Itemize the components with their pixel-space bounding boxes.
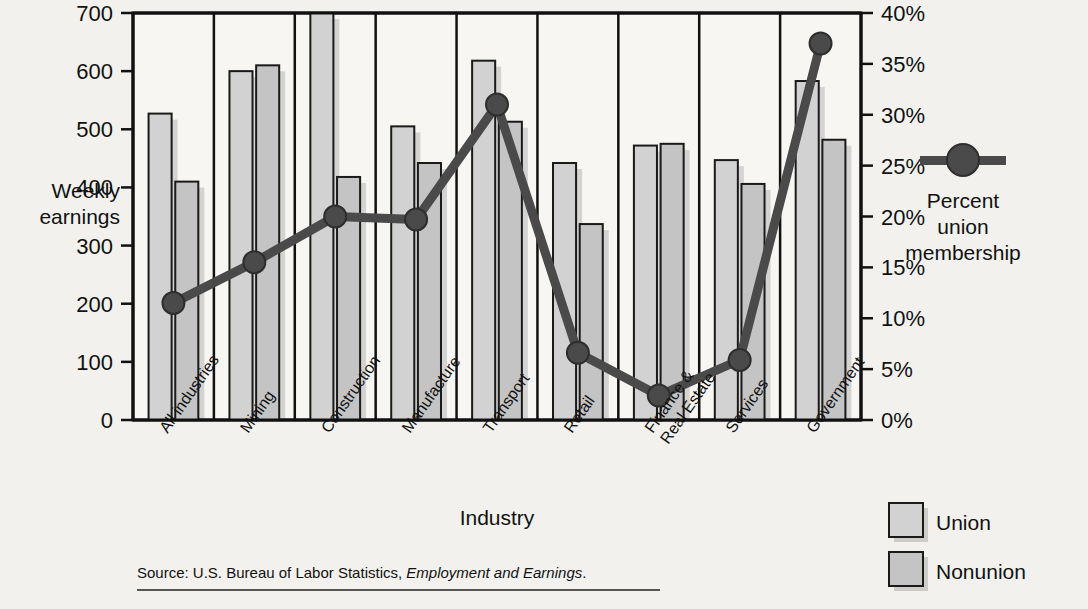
legend-line-label-line1: Percent [927, 189, 1000, 212]
source-note: Source: U.S. Bureau of Labor Statistics,… [137, 564, 586, 581]
y-axis-title-line2: earnings [39, 205, 120, 228]
right-axis-tick-label: 35% [881, 52, 925, 77]
left-axis-tick-label: 100 [76, 350, 113, 375]
bar-union [149, 114, 172, 420]
line-data-point[interactable] [486, 94, 508, 116]
legend-line-marker-icon [947, 144, 979, 176]
legend-nonunion-swatch [889, 552, 923, 586]
left-axis-tick-label: 300 [76, 234, 113, 259]
line-data-point[interactable] [810, 33, 832, 55]
chart-figure: 0100200300400500600700 0%5%10%15%20%25%3… [0, 0, 1088, 609]
line-data-point[interactable] [567, 342, 589, 364]
line-data-point[interactable] [162, 292, 184, 314]
right-axis-tick-label: 0% [881, 408, 913, 433]
bar-nonunion [580, 224, 603, 420]
left-axis-tick-label: 500 [76, 117, 113, 142]
bar-union [391, 126, 414, 420]
legend-union-label: Union [936, 511, 991, 534]
legend-nonunion-label: Nonunion [936, 560, 1026, 583]
line-data-point[interactable] [729, 349, 751, 371]
y-axis-title-line1: Weekly [52, 179, 121, 202]
legend-line-label-line2: union [937, 215, 988, 238]
right-axis-tick-label: 25% [881, 154, 925, 179]
right-axis-tick-label: 10% [881, 306, 925, 331]
right-axis-tick-label: 5% [881, 357, 913, 382]
right-axis-tick-label: 40% [881, 1, 925, 26]
left-axis-tick-label: 700 [76, 1, 113, 26]
bar-union [229, 71, 252, 420]
left-axis-tick-label: 200 [76, 292, 113, 317]
legend-union-swatch [889, 503, 923, 537]
legend-line-label-line3: membership [905, 241, 1021, 264]
left-axis-tick-label: 0 [101, 408, 113, 433]
right-axis-tick-label: 20% [881, 205, 925, 230]
chart-svg: 0100200300400500600700 0%5%10%15%20%25%3… [0, 0, 1088, 609]
line-data-point[interactable] [324, 206, 346, 228]
right-axis-tick-label: 30% [881, 103, 925, 128]
bar-union [715, 160, 738, 420]
x-axis-title: Industry [460, 506, 535, 529]
line-data-point[interactable] [405, 209, 427, 231]
bar-union [634, 146, 657, 420]
line-data-point[interactable] [243, 251, 265, 273]
left-axis-tick-label: 600 [76, 59, 113, 84]
bar-nonunion [256, 65, 279, 420]
